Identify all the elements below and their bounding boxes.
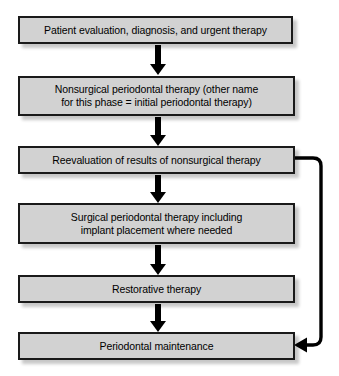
node-patient-evaluation: Patient evaluation, diagnosis, and urgen… — [18, 16, 293, 44]
arrow-shaft — [155, 117, 161, 135]
arrow-shaft — [155, 304, 161, 321]
node-label: Restorative therapy — [112, 283, 201, 296]
arrow-shaft — [155, 175, 161, 192]
node-label: Nonsurgical periodontal therapy (other n… — [55, 83, 259, 109]
flowchart-diagram: Patient evaluation, diagnosis, and urgen… — [0, 0, 339, 376]
arrow-head-icon — [150, 135, 166, 146]
node-restorative-therapy: Restorative therapy — [18, 275, 295, 303]
arrow-step1-to-step2 — [150, 45, 166, 75]
node-nonsurgical-periodontal-therapy: Nonsurgical periodontal therapy (other n… — [18, 76, 295, 116]
arrow-step3-to-step4 — [150, 175, 166, 203]
arrow-step5-to-step6 — [150, 304, 166, 332]
arrow-head-icon — [150, 64, 166, 75]
arrow-step2-to-step3 — [150, 117, 166, 146]
arrow-shaft — [155, 45, 161, 64]
node-label: Reevaluation of results of nonsurgical t… — [52, 154, 260, 167]
node-reevaluation-of-results: Reevaluation of results of nonsurgical t… — [18, 146, 295, 174]
arrow-head-icon — [150, 321, 166, 332]
arrow-head-icon — [150, 192, 166, 203]
node-label: Patient evaluation, diagnosis, and urgen… — [44, 24, 267, 37]
node-surgical-periodontal-therapy: Surgical periodontal therapy including i… — [18, 203, 295, 244]
arrow-step4-to-step5 — [150, 245, 166, 275]
feedback-loop-connector — [0, 0, 339, 376]
node-periodontal-maintenance: Periodontal maintenance — [18, 332, 295, 360]
node-label: Surgical periodontal therapy including i… — [71, 211, 242, 237]
node-label: Periodontal maintenance — [100, 340, 214, 353]
arrow-shaft — [155, 245, 161, 264]
arrow-head-icon — [150, 264, 166, 275]
